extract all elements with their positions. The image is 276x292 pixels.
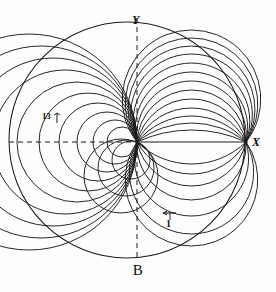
figure-caption: B [0, 262, 276, 279]
curve-circle-4-upper [137, 108, 246, 142]
annotation-label-1: 1 [166, 219, 171, 229]
figure-plot [0, 0, 276, 292]
curve-circle-13-upper [122, 30, 261, 142]
tick-marker-13 [54, 113, 60, 123]
curve-circle-12-lower [125, 142, 258, 246]
curve-circle-10-upper [131, 54, 253, 142]
curve-circle-3-upper [137, 116, 246, 142]
x-axis-label: X [252, 136, 260, 148]
inner-petal-group [84, 139, 158, 213]
circle-family-lower [125, 142, 258, 246]
annotation-label-13: 13 [42, 112, 51, 121]
curve-circle-2-upper [137, 123, 246, 142]
y-axis-label: Y [132, 14, 139, 26]
figure-container: Y X 13 1 B [0, 0, 276, 292]
